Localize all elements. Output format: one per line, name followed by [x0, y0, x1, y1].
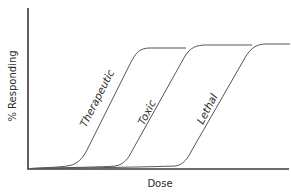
curve-therapeutic [30, 48, 186, 169]
x-axis-label: Dose [147, 178, 172, 189]
y-axis-label: % Responding [7, 50, 18, 121]
curve-toxic [30, 45, 252, 169]
dose-response-chart: Therapeutic Toxic Lethal Dose % Respondi… [0, 0, 291, 192]
label-therapeutic: Therapeutic [77, 67, 116, 129]
label-toxic: Toxic [135, 98, 158, 127]
curve-lethal [30, 44, 290, 169]
